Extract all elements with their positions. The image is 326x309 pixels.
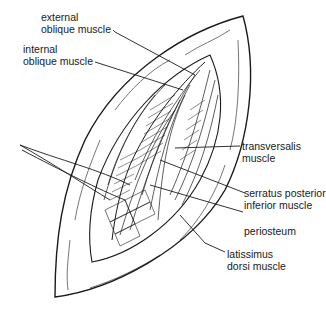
label-text: external <box>41 11 111 23</box>
label-text: dorsi muscle <box>227 260 286 272</box>
retractor-line <box>22 150 125 200</box>
label-text: serratus posterior <box>244 187 326 199</box>
label-text: internal <box>23 43 93 55</box>
label-transversalis: transversalis muscle <box>242 140 301 164</box>
label-periosteum: periosteum <box>244 225 296 237</box>
label-text: oblique muscle <box>23 55 93 67</box>
leader-internal-oblique <box>95 62 183 90</box>
wound-edge <box>90 55 221 262</box>
label-text: periosteum <box>244 225 296 237</box>
label-text: transversalis <box>242 140 301 152</box>
label-text: oblique muscle <box>41 23 111 35</box>
label-external-oblique: external oblique muscle <box>41 11 111 35</box>
label-text: inferior muscle <box>244 199 326 211</box>
label-latissimus-dorsi: latissimus dorsi muscle <box>227 248 286 272</box>
label-internal-oblique: internal oblique muscle <box>23 43 93 67</box>
leader-external-oblique <box>113 30 195 75</box>
label-text: latissimus <box>227 248 286 260</box>
leader-periosteum <box>150 185 243 212</box>
label-text: muscle <box>242 152 301 164</box>
label-serratus-posterior-inferior: serratus posterior inferior muscle <box>244 187 326 211</box>
leader-transversalis <box>175 146 240 148</box>
